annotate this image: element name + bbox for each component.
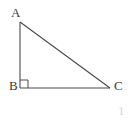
- vertex-label-a: A: [11, 6, 20, 19]
- triangle-figure: A B C 1: [0, 0, 132, 122]
- hypotenuse-ac-line: [20, 22, 110, 88]
- vertex-label-c: C: [114, 79, 123, 92]
- corner-artifact-mark: 1: [118, 104, 125, 117]
- vertex-label-b: B: [9, 79, 18, 92]
- right-angle-marker: [20, 80, 28, 88]
